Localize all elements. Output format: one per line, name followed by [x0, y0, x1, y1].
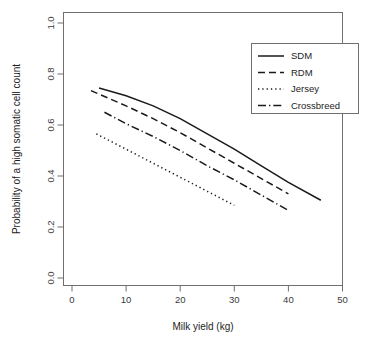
chart-canvas: 0.00.20.40.60.81.0 01020304050 SDMRDMJer…: [0, 0, 373, 340]
legend-label-crossbreed: Crossbreed: [291, 100, 340, 111]
y-tick-label: 0.4: [45, 169, 56, 182]
legend-label-jersey: Jersey: [291, 83, 319, 94]
y-tick-label: 0.6: [45, 118, 56, 131]
x-axis-title: Milk yield (kg): [172, 321, 233, 332]
legend-label-sdm: SDM: [291, 50, 312, 61]
x-tick-label: 30: [229, 294, 240, 305]
y-tick-label: 1.0: [45, 16, 56, 29]
x-tick-label: 10: [121, 294, 132, 305]
chart-legend: SDMRDMJerseyCrossbreed: [252, 44, 359, 114]
y-axis-ticks: 0.00.20.40.60.81.0: [45, 16, 64, 284]
x-axis-ticks: 01020304050: [69, 286, 347, 306]
y-tick-label: 0.0: [45, 271, 56, 284]
y-tick-label: 0.8: [45, 67, 56, 80]
y-axis-title: Probability of a high somatic cell count: [11, 64, 22, 234]
x-tick-label: 0: [69, 294, 74, 305]
x-tick-label: 50: [337, 294, 348, 305]
x-tick-label: 20: [175, 294, 186, 305]
legend-label-rdm: RDM: [291, 67, 313, 78]
chart-figure: 0.00.20.40.60.81.0 01020304050 SDMRDMJer…: [0, 0, 373, 340]
x-tick-label: 40: [283, 294, 294, 305]
y-tick-label: 0.2: [45, 220, 56, 233]
